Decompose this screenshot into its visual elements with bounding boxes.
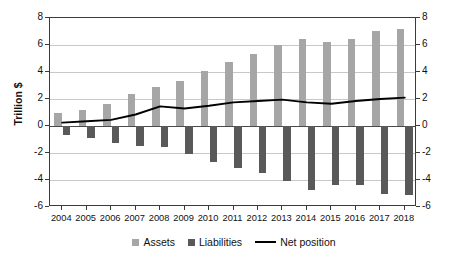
x-axis-tick-mark (306, 206, 307, 210)
liabilities-swatch-icon (188, 239, 195, 246)
x-axis-tick-mark (330, 206, 331, 210)
plot-area (49, 17, 416, 206)
y-axis-tick-mark (45, 206, 49, 207)
y-axis-tick-label-left: -6 (17, 201, 43, 211)
x-axis-tick-mark (135, 206, 136, 210)
x-axis-tick-mark (110, 206, 111, 210)
y-axis-tick-label-left: 4 (17, 66, 43, 76)
y-axis-tick-label-right: -6 (422, 201, 448, 211)
legend-label-liabilities: Liabilities (199, 236, 242, 248)
assets-swatch-icon (132, 239, 139, 246)
y-axis-tick-mark (416, 206, 420, 207)
y-axis-tick-mark (45, 71, 49, 72)
y-axis-tick-mark (416, 125, 420, 126)
x-axis-tick-mark (379, 206, 380, 210)
y-axis-tick-mark (416, 152, 420, 153)
y-axis-tick-mark (416, 98, 420, 99)
legend-label-assets: Assets (143, 236, 175, 248)
legend-label-net-position: Net position (280, 236, 335, 248)
y-axis-tick-mark (45, 179, 49, 180)
legend-item-assets: Assets (132, 236, 175, 248)
legend-item-net-position: Net position (255, 236, 335, 248)
x-axis-tick-mark (281, 206, 282, 210)
x-axis-tick-mark (159, 206, 160, 210)
x-axis-tick-mark (404, 206, 405, 210)
y-axis-tick-label-left: 2 (17, 93, 43, 103)
y-axis-tick-label-right: 6 (422, 39, 448, 49)
y-axis-tick-label-left: 6 (17, 39, 43, 49)
y-axis-tick-label-left: -2 (17, 147, 43, 157)
x-axis-tick-label: 2018 (390, 213, 418, 223)
y-axis-tick-mark (45, 125, 49, 126)
chart-container: Trillion $ 8866442200-2-2-4-4-6-6 200420… (0, 0, 468, 261)
legend-item-liabilities: Liabilities (188, 236, 242, 248)
y-axis-tick-label-right: 2 (422, 93, 448, 103)
y-axis-tick-label-left: 8 (17, 12, 43, 22)
y-axis-tick-label-left: -4 (17, 174, 43, 184)
x-axis-tick-mark (61, 206, 62, 210)
y-axis-tick-mark (45, 98, 49, 99)
y-axis-tick-mark (416, 44, 420, 45)
y-axis-tick-mark (45, 44, 49, 45)
x-axis-tick-mark (86, 206, 87, 210)
chart-legend: Assets Liabilities Net position (0, 236, 468, 248)
y-axis-tick-mark (45, 17, 49, 18)
y-axis-tick-label-left: 0 (17, 120, 43, 130)
net-position-line-icon (255, 241, 276, 243)
x-axis-tick-mark (208, 206, 209, 210)
y-axis-tick-label-right: 4 (422, 66, 448, 76)
x-axis-tick-mark (257, 206, 258, 210)
x-axis-tick-mark (355, 206, 356, 210)
y-axis-tick-label-right: 0 (422, 120, 448, 130)
y-axis-tick-mark (416, 179, 420, 180)
y-axis-tick-mark (45, 152, 49, 153)
y-axis-tick-mark (416, 17, 420, 18)
y-axis-title: Trillion $ (12, 44, 24, 164)
y-axis-tick-label-right: 8 (422, 12, 448, 22)
y-axis-tick-label-right: -4 (422, 174, 448, 184)
net-position-line (50, 18, 417, 207)
x-axis-tick-mark (233, 206, 234, 210)
y-axis-tick-label-right: -2 (422, 147, 448, 157)
x-axis-tick-mark (184, 206, 185, 210)
y-axis-tick-mark (416, 71, 420, 72)
